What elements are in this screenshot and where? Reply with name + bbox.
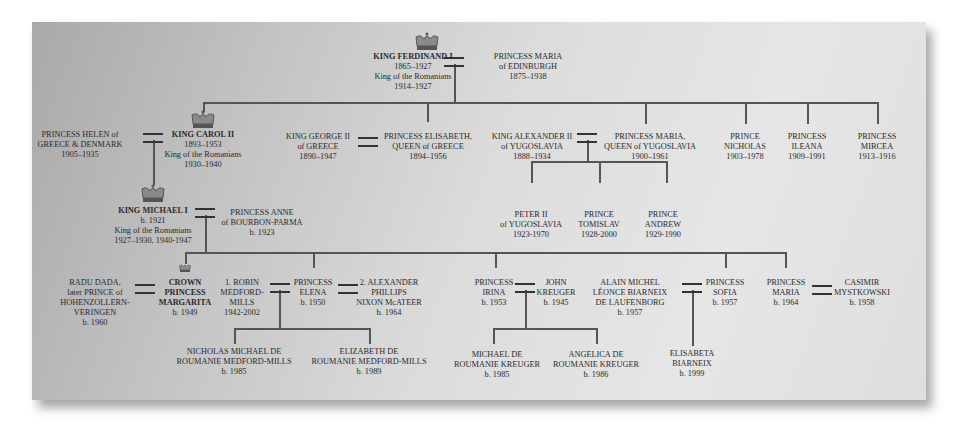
crown-icon bbox=[414, 32, 440, 52]
marriage-symbol-alain-sofia bbox=[682, 283, 702, 293]
person-princess-irina: PRINCESS IRINA b. 1953 bbox=[475, 278, 514, 308]
person-prince-nicholas: PRINCE NICHOLAS 1903–1978 bbox=[724, 132, 766, 162]
crown-icon bbox=[190, 110, 216, 130]
crown-icon bbox=[140, 184, 166, 204]
person-princess-ileana: PRINCESS ILEANA 1909–1991 bbox=[788, 132, 827, 162]
person-king-ferdinand-i: KING FERDINAND I 1865–1927 King of the R… bbox=[373, 52, 452, 92]
marriage-symbol-carol-helen bbox=[143, 133, 163, 143]
person-crown-princess-margarita: CROWN PRINCESS MARGARITA b. 1949 bbox=[159, 278, 211, 318]
person-alexander-mcateer: 2. ALEXANDER PHILLIPS NIXON McATEER b. 1… bbox=[356, 278, 422, 318]
person-elizabeth-medford-mills: ELIZABETH DE ROUMANIE MEDFORD-MILLS b. 1… bbox=[311, 347, 426, 377]
crown-icon bbox=[178, 263, 192, 273]
person-princess-anne: PRINCESS ANNE of BOURBON-PARMA b. 1923 bbox=[221, 208, 302, 238]
person-peter-ii: PETER II of YUGOSLAVIA 1923-1970 bbox=[500, 210, 562, 240]
marriage-symbol-michael-anne bbox=[195, 208, 215, 218]
person-prince-andrew: PRINCE ANDREW 1929-1990 bbox=[645, 210, 681, 240]
person-angelica-kreuger: ANGELICA DE ROUMANIE KREUGER b. 1986 bbox=[553, 350, 639, 380]
person-prince-tomislav: PRINCE TOMISLAV 1928-2000 bbox=[578, 210, 620, 240]
person-john-kreuger: JOHN KREUGER b. 1945 bbox=[536, 278, 575, 308]
person-king-alexander-ii: KING ALEXANDER II of YUGOSLAVIA 1888–193… bbox=[492, 132, 573, 162]
person-casimir-mystkowski: CASIMIR MYSTKOWSKI b. 1958 bbox=[834, 278, 890, 308]
person-princess-maria: PRINCESS MARIA b. 1964 bbox=[767, 278, 806, 308]
person-princess-maria-yugoslavia: PRINCESS MARIA, QUEEN of YUGOSLAVIA 1900… bbox=[604, 132, 696, 162]
person-elisabeta-biarneix: ELISABETA BIARNEIX b. 1999 bbox=[670, 349, 715, 379]
person-princess-mircea: PRINCESS MIRCEA 1913–1916 bbox=[858, 132, 897, 162]
person-robin-medford-mills: 1. ROBIN MEDFORD- MILLS 1942-2002 bbox=[220, 278, 263, 318]
person-nicholas-medford-mills: NICHOLAS MICHAEL DE ROUMANIE MEDFORD-MIL… bbox=[176, 347, 291, 377]
marriage-symbol-irina-john bbox=[515, 283, 535, 293]
person-king-michael-i: KING MICHAEL I b. 1921 King of the Roman… bbox=[114, 206, 191, 246]
person-king-george-ii: KING GEORGE II of GREECE 1890–1947 bbox=[286, 132, 350, 162]
person-princess-elisabeth: PRINCESS ELISABETH, QUEEN of GREECE 1894… bbox=[384, 132, 472, 162]
person-princess-maria-edinburgh: PRINCESS MARIA of EDINBURGH 1875–1938 bbox=[494, 52, 562, 82]
person-princess-sofia: PRINCESS SOFIA b. 1957 bbox=[706, 278, 745, 308]
marriage-symbol-robin-elena bbox=[270, 283, 290, 293]
person-princess-elena: PRINCESS ELENA b. 1950 bbox=[294, 278, 333, 308]
person-michael-kreuger: MICHAEL DE ROUMANIE KREUGER b. 1985 bbox=[454, 350, 540, 380]
marriage-symbol-elena-alexander bbox=[338, 284, 358, 294]
marriage-symbol-radu-margarita bbox=[135, 284, 155, 294]
person-radu-dada: RADU DADA, later PRINCE of HOHENZOLLERN-… bbox=[60, 278, 130, 328]
person-princess-helen: PRINCESS HELEN of GREECE & DENMARK 1905–… bbox=[38, 130, 123, 160]
person-king-carol-ii: KING CAROL II 1893–1953 King of the Roma… bbox=[164, 130, 241, 170]
marriage-symbol-alexander-maria bbox=[577, 133, 597, 143]
marriage-symbol-maria-casimir bbox=[812, 285, 832, 295]
person-alain-biarneix: ALAIN MICHEL LÉONCE BIARNEIX DE LAUFENBO… bbox=[593, 278, 667, 318]
marriage-symbol-george-elisabeth bbox=[358, 137, 378, 147]
